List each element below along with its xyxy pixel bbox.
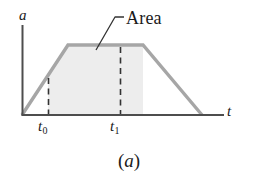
- figure-container: a t Area t0 t1 (a): [0, 0, 258, 182]
- tick-label-t0: t0: [38, 119, 47, 136]
- tick-label-t1-subscript: 1: [114, 125, 119, 136]
- caption-close-paren: ): [134, 150, 140, 171]
- x-axis-label: t: [227, 104, 231, 119]
- tick-label-t0-subscript: 0: [42, 125, 47, 136]
- area-annotation-label: Area: [126, 9, 162, 27]
- caption-letter: a: [124, 150, 134, 171]
- figure-caption: (a): [0, 150, 258, 172]
- tick-label-t1: t1: [110, 119, 119, 136]
- y-axis-label: a: [19, 8, 27, 23]
